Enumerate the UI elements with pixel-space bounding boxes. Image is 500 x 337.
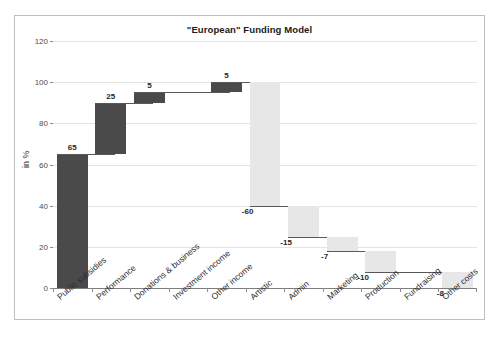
waterfall-bar[interactable] (250, 82, 281, 206)
bar-value-label: -10 (357, 273, 369, 282)
x-axis-tick-mark (476, 288, 477, 292)
y-axis-tick-mark (50, 123, 53, 124)
y-axis-tick-label: 40 (39, 201, 48, 210)
waterfall-bar[interactable] (288, 206, 319, 237)
y-axis-tick-label: 100 (35, 78, 48, 87)
x-axis-category-label: Marketing (325, 270, 360, 302)
y-axis-tick-label: 60 (39, 160, 48, 169)
chart-frame: "European" Funding Model in % 0204060801… (14, 15, 485, 320)
x-axis-category-label: Donations & business (132, 241, 201, 302)
x-axis-tick-mark (361, 288, 362, 292)
chart-title: "European" Funding Model (15, 24, 484, 35)
x-axis-category-label: Artistic (248, 278, 274, 302)
waterfall-bar[interactable] (327, 237, 358, 251)
y-axis-tick-mark (50, 165, 53, 166)
x-axis-tick-mark (92, 288, 93, 292)
waterfall-connector (95, 103, 153, 104)
bar-value-label: -7 (321, 252, 328, 261)
y-axis-tick-mark (50, 41, 53, 42)
x-axis-tick-mark (246, 288, 247, 292)
waterfall-bar[interactable] (211, 82, 242, 92)
waterfall-bar[interactable] (134, 92, 165, 102)
waterfall-bar[interactable] (95, 103, 126, 154)
x-axis-category-label: Admin (286, 279, 311, 302)
y-axis-tick-label: 0 (44, 284, 48, 293)
y-axis-label: in % (21, 150, 31, 168)
bar-value-label: 5 (147, 81, 151, 90)
y-axis-tick-mark (50, 247, 53, 248)
x-axis-tick-mark (438, 288, 439, 292)
bar-value-label: 5 (224, 71, 228, 80)
x-axis-tick-mark (323, 288, 324, 292)
y-axis-tick-mark (50, 206, 53, 207)
bar-value-label: 25 (106, 92, 115, 101)
x-axis-tick-mark (130, 288, 131, 292)
x-axis-tick-mark (400, 288, 401, 292)
bar-value-label: -60 (242, 207, 254, 216)
y-axis-tick-label: 120 (35, 37, 48, 46)
bar-value-label: -15 (280, 238, 292, 247)
y-axis-tick-mark (50, 82, 53, 83)
plot-area: 02040608010012065Public subsidies25Perfo… (53, 41, 477, 288)
x-axis-tick-mark (207, 288, 208, 292)
x-axis-tick-mark (284, 288, 285, 292)
y-axis-tick-label: 20 (39, 242, 48, 251)
bar-value-label: 65 (68, 143, 77, 152)
x-axis-tick-mark (53, 288, 54, 292)
gridline (53, 41, 477, 42)
waterfall-bar[interactable] (57, 154, 88, 288)
y-axis-tick-label: 80 (39, 119, 48, 128)
gridline (53, 247, 477, 248)
x-axis-tick-mark (169, 288, 170, 292)
